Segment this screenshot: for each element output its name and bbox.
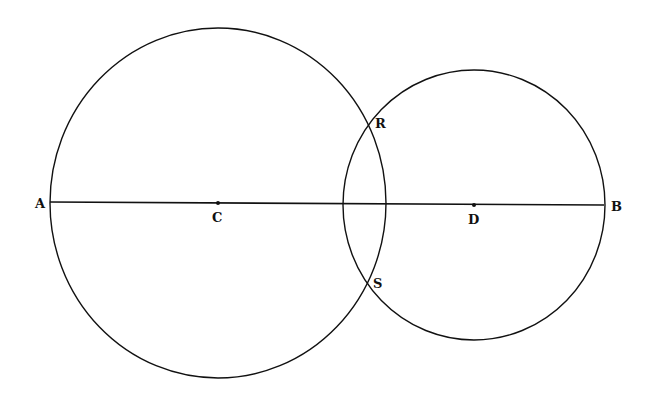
point-B: B (611, 199, 622, 214)
point-S: S (373, 276, 382, 291)
point-C: C (212, 201, 222, 225)
point-label: C (212, 210, 222, 225)
point-label: S (373, 276, 382, 291)
point-label: D (468, 212, 479, 227)
point-label: B (611, 199, 622, 214)
point-A: A (34, 196, 46, 211)
segment-AB (50, 202, 604, 205)
point-R: R (375, 116, 386, 131)
point-dot (472, 203, 476, 207)
point-D: D (468, 203, 479, 227)
point-label: R (375, 116, 386, 131)
point-dot (216, 201, 220, 205)
geometry-diagram: ACRSDB (0, 0, 651, 402)
point-label: A (34, 196, 46, 211)
